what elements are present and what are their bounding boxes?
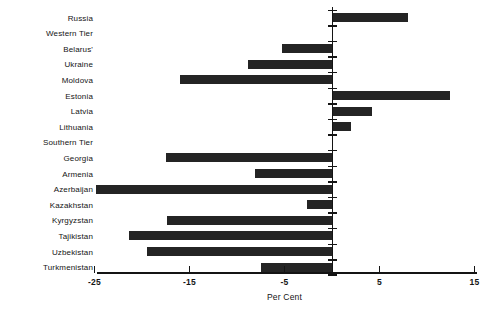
x-axis-title: Per Cent — [225, 292, 345, 302]
bar — [147, 247, 332, 256]
bar — [180, 75, 332, 84]
bar-chart: RussiaWestern TierBelarus'UkraineMoldova… — [0, 0, 493, 312]
x-axis-tick — [284, 266, 286, 273]
zero-axis-line — [332, 7, 334, 272]
x-axis-tick — [379, 266, 381, 273]
bar — [166, 153, 332, 162]
x-axis-tick-label: -25 — [75, 278, 115, 287]
x-axis-tick — [94, 266, 96, 273]
bar — [332, 13, 408, 22]
x-axis-tick-label: 15 — [455, 278, 493, 287]
plot-area — [0, 0, 493, 280]
x-axis-tick-label: -5 — [265, 278, 305, 287]
x-axis-tick-label: 5 — [360, 278, 400, 287]
bar — [332, 107, 372, 116]
bar — [167, 216, 332, 225]
x-axis-tick — [189, 266, 191, 273]
bar — [255, 169, 332, 178]
x-axis-tick-label: -15 — [170, 278, 210, 287]
x-axis-line — [97, 272, 477, 274]
bar — [332, 91, 450, 100]
bar — [282, 44, 332, 53]
bar — [248, 60, 332, 69]
x-axis-tick — [474, 266, 476, 273]
bar — [96, 185, 332, 194]
bar — [129, 231, 332, 240]
category-tick — [328, 274, 337, 276]
bar — [332, 122, 351, 131]
bar — [261, 263, 332, 272]
bar — [307, 200, 332, 209]
